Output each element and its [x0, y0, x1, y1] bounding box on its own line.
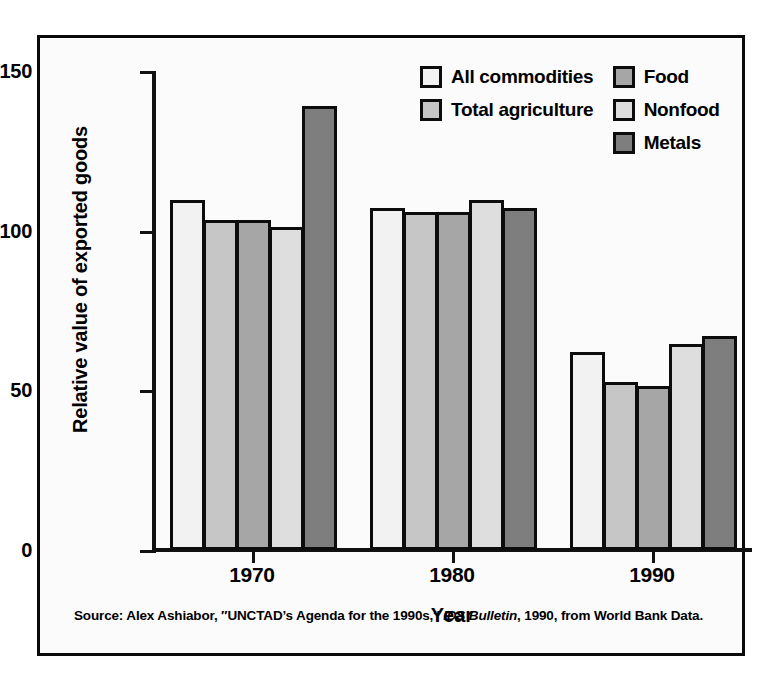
bar-1980-metals: [502, 208, 537, 550]
x-axis-group-label-1970: 1970: [202, 563, 302, 587]
bar-1980-nonfood: [469, 200, 504, 550]
bar-1990-food: [636, 386, 671, 550]
source-note-publication: IDS Bulletin: [443, 608, 517, 623]
y-axis-title: Relative value of exported goods: [69, 80, 92, 480]
x-axis-group-label-1990: 1990: [602, 563, 702, 587]
bar-1990-nonfood: [669, 344, 704, 550]
bar-1980-all-commodities: [370, 208, 405, 550]
legend-label: Nonfood: [644, 99, 720, 121]
legend-column-right: FoodNonfoodMetals: [613, 60, 720, 159]
bar-1980-total-agriculture: [403, 212, 438, 550]
legend-item-metals[interactable]: Metals: [613, 126, 720, 159]
bar-1990-all-commodities: [570, 352, 605, 550]
bar-1970-metals: [302, 106, 337, 550]
x-axis-tick-1980: [452, 552, 455, 563]
bar-1980-food: [436, 212, 471, 550]
x-axis-group-label-1980: 1980: [402, 563, 502, 587]
chart-legend: All commoditiesTotal agriculture FoodNon…: [420, 60, 720, 159]
legend-swatch-nonfood: [613, 99, 635, 121]
legend-swatch-all-commodities: [420, 66, 442, 88]
legend-item-all-commodities[interactable]: All commodities: [420, 60, 593, 93]
source-note-suffix: , 1990, from World Bank Data.: [517, 608, 703, 623]
y-axis-tick-mark: [140, 550, 156, 553]
y-axis-tick-label: 100: [0, 220, 32, 243]
y-axis-tick-label: 150: [0, 60, 32, 83]
x-axis-tick-1990: [652, 552, 655, 563]
y-axis-tick-label: 0: [21, 539, 32, 562]
bar-1990-total-agriculture: [603, 382, 638, 550]
bar-1970-all-commodities: [170, 200, 205, 550]
legend-swatch-food: [613, 66, 635, 88]
x-axis-tick-1970: [252, 552, 255, 563]
bar-1990-metals: [702, 336, 737, 550]
legend-swatch-total-agriculture: [420, 99, 442, 121]
legend-item-food[interactable]: Food: [613, 60, 720, 93]
y-axis-tick-label: 50: [10, 379, 32, 402]
source-note: Source: Alex Ashiabor, ″UNCTAD’s Agenda …: [74, 608, 728, 623]
bar-1970-food: [236, 220, 271, 551]
chart-plot-area: Relative value of exported goods 0501001…: [40, 38, 742, 653]
figure-frame: Relative value of exported goods 0501001…: [37, 35, 745, 656]
legend-label: Total agriculture: [451, 99, 593, 121]
legend-column-left: All commoditiesTotal agriculture: [420, 60, 593, 126]
source-note-prefix: Source: Alex Ashiabor, ″UNCTAD’s Agenda …: [74, 608, 443, 623]
legend-label: Food: [644, 66, 689, 88]
legend-item-nonfood[interactable]: Nonfood: [613, 93, 720, 126]
legend-swatch-metals: [613, 132, 635, 154]
bar-1970-nonfood: [269, 227, 304, 550]
bar-1970-total-agriculture: [203, 220, 238, 551]
legend-label: All commodities: [451, 66, 593, 88]
legend-item-total-agriculture[interactable]: Total agriculture: [420, 93, 593, 126]
legend-label: Metals: [644, 132, 701, 154]
